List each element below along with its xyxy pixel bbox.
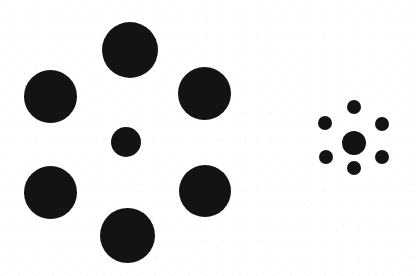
left-cluster-surrounding-lower-right-circle (179, 165, 231, 217)
right-cluster-surrounding-top-circle (347, 100, 361, 114)
left-cluster-surrounding-top-circle (102, 22, 158, 78)
right-cluster-surrounding-lower-right-circle (375, 150, 389, 164)
left-cluster-surrounding-lower-left-circle (24, 166, 77, 219)
left-cluster-surrounding-upper-left-circle (24, 70, 77, 123)
right-cluster-target-center-circle (342, 131, 366, 155)
right-cluster-surrounding-upper-right-circle (375, 117, 389, 131)
right-cluster-surrounding-lower-left-circle (319, 150, 333, 164)
right-cluster-surrounding-upper-left-circle (318, 116, 332, 130)
left-cluster-surrounding-upper-right-circle (178, 67, 231, 120)
illusion-figure-canvas (0, 0, 420, 276)
right-cluster-surrounding-bottom-circle (347, 161, 361, 175)
left-cluster-target-center-circle (111, 127, 141, 157)
left-cluster-surrounding-bottom-circle (100, 208, 155, 263)
